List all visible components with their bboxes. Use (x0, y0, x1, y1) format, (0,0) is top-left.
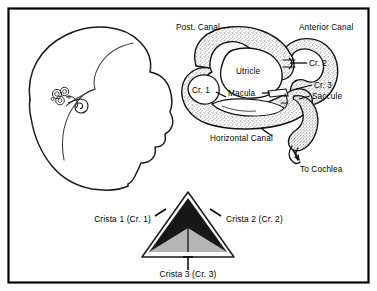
label-crista3: Crista 3 (Cr. 3) (160, 269, 217, 279)
label-horizontal-canal: Horizontal Canal (210, 134, 273, 143)
label-cr3: Cr. 3 (314, 81, 332, 90)
label-utricle: Utricle (236, 67, 261, 76)
label-crista1: Crista 1 (Cr. 1) (94, 214, 151, 224)
figure-root: Post. Canal Anterior Canal Utricle Cr. 1… (0, 0, 377, 291)
label-anterior-canal: Anterior Canal (299, 23, 353, 32)
label-saccule: Saccule (312, 92, 342, 101)
label-cr1: Cr. 1 (192, 86, 210, 95)
label-post-canal: Post. Canal (176, 23, 220, 32)
label-macula: Macula (228, 89, 256, 98)
label-cr2: Cr. 2 (309, 59, 327, 68)
label-crista2: Crista 2 (Cr. 2) (226, 214, 283, 224)
label-to-cochlea: To Cochlea (300, 165, 343, 174)
vestibular-labyrinth-figure: Post. Canal Anterior Canal Utricle Cr. 1… (0, 0, 377, 291)
